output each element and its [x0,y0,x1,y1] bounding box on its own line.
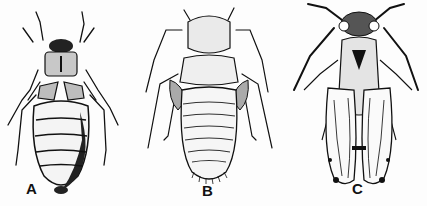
panel-b: B [130,0,290,206]
panel-label-c: C [352,180,363,197]
panel-label-a: A [26,180,37,197]
insect-a-illustration [0,0,140,206]
panel-label-b: B [202,182,213,199]
insect-b-illustration [130,0,290,206]
panel-a: A [0,0,140,206]
insect-figure: A [0,0,427,206]
insect-c-illustration [290,0,427,206]
panel-c: C [290,0,427,206]
